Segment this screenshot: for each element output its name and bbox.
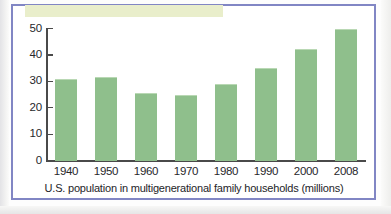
y-axis-line — [46, 28, 48, 161]
y-axis-tick-label: 50 — [18, 22, 42, 36]
y-axis-tick-label: 0 — [18, 154, 42, 168]
figure-root: 01020304050 1940195019601970198019902000… — [0, 0, 391, 214]
y-axis-tick — [46, 81, 53, 82]
bar — [55, 79, 77, 162]
x-axis-tick-label: 1990 — [244, 165, 288, 177]
x-axis-tick-label: 1980 — [204, 165, 248, 177]
y-axis-tick-label-text: 50 — [20, 22, 42, 34]
bar — [255, 68, 277, 161]
y-axis-tick-label: 40 — [18, 48, 42, 62]
y-axis-tick-label: 20 — [18, 101, 42, 115]
y-axis-tick-label: 10 — [18, 127, 42, 141]
y-axis-tick — [46, 160, 53, 161]
bar — [175, 95, 197, 161]
chart-caption: U.S. population in multigenerational fam… — [14, 182, 374, 194]
y-axis-tick — [46, 134, 53, 135]
y-axis-tick — [46, 107, 53, 108]
x-axis-tick-label: 2008 — [324, 165, 368, 177]
y-axis-tick-label-text: 30 — [20, 74, 42, 86]
x-axis-tick-label: 1950 — [84, 165, 128, 177]
bar — [215, 84, 237, 162]
x-axis-tick-label: 1940 — [44, 165, 88, 177]
y-axis-tick-label-text: 20 — [20, 101, 42, 113]
bar — [335, 29, 357, 161]
x-axis-tick-label: 1970 — [164, 165, 208, 177]
y-axis-tick-label-text: 40 — [20, 48, 42, 60]
y-axis-tick — [46, 54, 53, 55]
bar — [135, 93, 157, 161]
y-axis-tick — [46, 28, 53, 29]
y-axis-tick-label: 30 — [18, 74, 42, 88]
x-axis-tick-label: 2000 — [284, 165, 328, 177]
bar — [295, 49, 317, 162]
y-axis-tick-label-text: 10 — [20, 127, 42, 139]
x-axis-tick-label: 1960 — [124, 165, 168, 177]
x-axis-line — [46, 160, 366, 162]
bar — [95, 77, 117, 161]
y-axis-tick-label-text: 0 — [20, 154, 42, 166]
